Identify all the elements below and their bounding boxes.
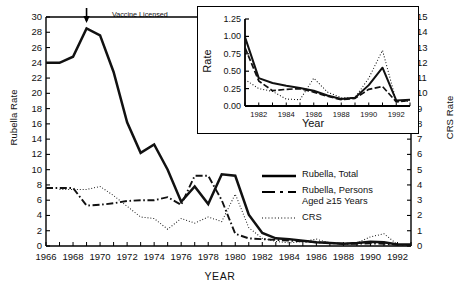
legend: Rubella, Total Rubella, Persons Aged ≥15… [258, 170, 408, 218]
legend-item-rubella-total: Rubella, Total [302, 169, 358, 179]
legend-item-crs: CRS [302, 212, 322, 222]
inset-panel: Rate Year 0.000.250.500.751.001.25 19821… [197, 6, 419, 134]
legend-item-rubella-15plus: Rubella, Persons [302, 185, 373, 195]
legend-item-rubella-15plus-line2: Aged ≥15 Years [302, 196, 368, 206]
inset-axes [245, 19, 410, 106]
inset-plot-svg [198, 7, 420, 135]
vaccine-licensed-arrow-icon [83, 8, 89, 23]
chart-figure: Rubella Rate CRS Rate YEAR Vaccine Licen… [0, 0, 467, 292]
inset-series-group [245, 37, 410, 102]
